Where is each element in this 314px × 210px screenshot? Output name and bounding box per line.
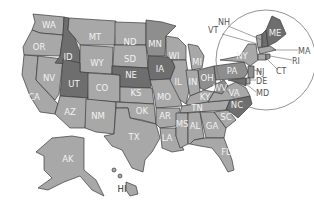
label-co: CO <box>96 83 109 93</box>
callout-ri: RI <box>292 57 300 66</box>
label-sc: SC <box>220 112 231 122</box>
leader-line <box>270 56 292 60</box>
callout-ma: MA <box>298 47 311 56</box>
label-wa: WA <box>42 20 56 30</box>
label-nc: NC <box>231 100 243 110</box>
state-de[interactable] <box>246 78 250 84</box>
callout-nh: NH <box>218 18 230 27</box>
state-ak[interactable] <box>36 136 104 196</box>
label-me: ME <box>269 28 282 38</box>
label-az: AZ <box>64 107 76 117</box>
us-states-map: WA OR CA NV ID MT WY UT AZ CO NM ND SD N… <box>0 0 314 210</box>
label-mi: MI <box>192 57 202 67</box>
state-hi[interactable] <box>126 182 138 196</box>
label-ut: UT <box>68 79 80 89</box>
leader-line <box>222 34 258 44</box>
label-va: VA <box>228 88 239 98</box>
leader-line <box>228 26 262 40</box>
label-ia: IA <box>156 64 165 74</box>
label-nd: ND <box>124 37 137 47</box>
label-ms: MS <box>176 119 189 129</box>
callout-de: DE <box>256 77 267 86</box>
label-ne: NE <box>125 70 137 80</box>
label-mn: MN <box>148 39 162 49</box>
label-oh: OH <box>200 73 213 83</box>
callout-nj: NJ <box>256 68 264 77</box>
label-wy: WY <box>90 58 104 68</box>
label-wv: WV <box>213 83 227 93</box>
label-ny: NY <box>236 51 248 61</box>
label-nv: NV <box>43 73 55 83</box>
state-ct[interactable] <box>258 54 266 60</box>
label-ks: KS <box>131 88 142 98</box>
label-ok: OK <box>136 106 149 116</box>
label-wi: WI <box>169 51 180 61</box>
label-tx: TX <box>127 132 139 142</box>
callout-ct: CT <box>276 67 287 76</box>
label-ak: AK <box>62 154 74 164</box>
callout-vt: VT <box>208 26 218 35</box>
label-ky: KY <box>200 92 211 102</box>
label-nm: NM <box>91 111 105 121</box>
label-mo: MO <box>157 92 171 102</box>
label-ca: CA <box>28 92 40 102</box>
label-il: IL <box>174 77 182 87</box>
hi-island <box>112 168 116 172</box>
label-pa: PA <box>227 66 238 76</box>
state-vt[interactable] <box>256 34 262 48</box>
label-mt: MT <box>89 32 102 42</box>
label-fl: FL <box>221 147 231 157</box>
label-in: IN <box>189 77 198 87</box>
label-hi: HI <box>118 184 127 194</box>
label-id: ID <box>63 52 73 62</box>
hi-island <box>118 174 122 178</box>
label-ar: AR <box>159 111 171 121</box>
state-ri[interactable] <box>266 54 270 60</box>
callout-md: MD <box>256 89 269 98</box>
label-la: LA <box>162 133 173 143</box>
label-sd: SD <box>124 54 136 64</box>
state-nj[interactable] <box>248 66 254 78</box>
label-tn: TN <box>190 103 203 113</box>
label-ga: GA <box>206 121 219 131</box>
label-or: OR <box>33 42 46 52</box>
label-al: AL <box>190 121 201 131</box>
